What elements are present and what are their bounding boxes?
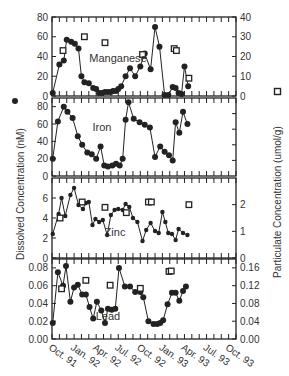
plot-frame bbox=[52, 178, 236, 258]
dissolved-point bbox=[132, 73, 138, 79]
dissolved-point bbox=[118, 83, 124, 89]
dissolved-point bbox=[156, 44, 162, 50]
particulate-point bbox=[107, 282, 113, 288]
dissolved-point bbox=[127, 205, 131, 209]
dissolved-point bbox=[89, 151, 95, 157]
right-tick-label: 0.12 bbox=[240, 280, 260, 291]
dissolved-point bbox=[183, 284, 189, 290]
dissolved-point bbox=[70, 115, 76, 121]
dissolved-point bbox=[61, 57, 67, 63]
right-tick-label: 0.16 bbox=[240, 262, 260, 273]
right-tick-label: 0 bbox=[240, 91, 246, 102]
left-tick-label: 60 bbox=[37, 119, 49, 130]
dissolved-point bbox=[157, 144, 163, 150]
dissolved-point bbox=[137, 63, 143, 69]
particulate-point bbox=[186, 202, 192, 208]
dissolved-point bbox=[173, 290, 179, 296]
dissolved-point bbox=[78, 73, 84, 79]
dissolved-point bbox=[75, 282, 81, 288]
panel-label: Zinc bbox=[105, 226, 126, 238]
right-tick-label: 2 bbox=[240, 199, 246, 210]
dissolved-point bbox=[185, 83, 191, 89]
dissolved-point bbox=[131, 116, 137, 122]
particulate-point bbox=[59, 286, 65, 292]
dissolved-point bbox=[176, 227, 180, 231]
particulate-point bbox=[57, 215, 63, 221]
dissolved-point bbox=[61, 104, 67, 110]
dissolved-point bbox=[173, 238, 177, 242]
dissolved-point bbox=[83, 292, 89, 298]
panels: 020406080010203040Manganese020406080Iron… bbox=[29, 12, 260, 345]
dissolved-point bbox=[63, 263, 69, 269]
dissolved-point bbox=[123, 73, 129, 79]
dissolved-point bbox=[180, 109, 186, 115]
particulate-point bbox=[60, 48, 66, 54]
panel-label: Manganese bbox=[89, 52, 147, 64]
dissolved-point bbox=[147, 124, 153, 130]
dissolved-point bbox=[148, 221, 152, 225]
left-tick-label: 40 bbox=[37, 136, 49, 147]
panel-manganese: 020406080010203040Manganese bbox=[37, 12, 252, 102]
particulate-point bbox=[168, 268, 174, 274]
dissolved-point bbox=[50, 90, 56, 96]
dissolved-point bbox=[184, 121, 190, 127]
left-tick-label: 0 bbox=[42, 171, 48, 182]
dissolved-point bbox=[101, 218, 105, 222]
dissolved-point bbox=[152, 154, 158, 160]
right-tick-label: 0.04 bbox=[240, 316, 260, 327]
dissolved-point bbox=[148, 66, 154, 72]
dissolved-point bbox=[117, 163, 123, 169]
particulate-point bbox=[83, 278, 89, 284]
left-tick-label: 20 bbox=[37, 153, 49, 164]
dissolved-point bbox=[51, 232, 55, 236]
left-tick-label: 0.06 bbox=[29, 280, 49, 291]
dissolved-point bbox=[160, 317, 166, 323]
dissolved-point bbox=[152, 24, 158, 30]
dissolved-point bbox=[145, 318, 151, 324]
particulate-point bbox=[186, 75, 192, 81]
panel-iron: 020406080Iron bbox=[37, 98, 236, 182]
dissolved-point bbox=[122, 284, 128, 290]
dissolved-point bbox=[170, 157, 176, 163]
dissolved-point bbox=[142, 122, 148, 128]
right-tick-label: 1 bbox=[240, 226, 246, 237]
particulate-point bbox=[102, 205, 108, 211]
dissolved-point bbox=[170, 232, 174, 236]
left-tick-label: 2 bbox=[42, 233, 48, 244]
left-tick-label: 4 bbox=[42, 213, 48, 224]
left-tick-label: 0.02 bbox=[29, 316, 49, 327]
dissolved-point bbox=[120, 156, 126, 162]
dissolved-point bbox=[87, 200, 91, 204]
left-tick-label: 40 bbox=[37, 51, 49, 62]
dissolved-point bbox=[166, 231, 170, 235]
dissolved-point bbox=[157, 231, 161, 235]
dissolved-point bbox=[131, 216, 135, 220]
dissolved-point bbox=[68, 193, 72, 197]
dissolved-point bbox=[86, 80, 92, 86]
dissolved-point bbox=[165, 301, 171, 307]
left-axis-title: Dissolved Concentration (nM) bbox=[15, 128, 26, 260]
dissolved-point bbox=[185, 233, 189, 237]
dissolved-point bbox=[116, 207, 120, 211]
particulate-point bbox=[82, 34, 88, 40]
right-tick-label: 0.08 bbox=[240, 298, 260, 309]
right-tick-label: 10 bbox=[240, 71, 252, 82]
dissolved-point bbox=[160, 210, 164, 214]
left-tick-label: 0.04 bbox=[29, 298, 49, 309]
dissolved-point bbox=[55, 118, 61, 124]
dissolved-point bbox=[93, 217, 97, 221]
dissolved-point bbox=[50, 156, 56, 162]
panel-label: Lead bbox=[96, 310, 120, 322]
dissolved-point bbox=[72, 186, 76, 190]
dissolved-point bbox=[176, 298, 182, 304]
particulate-point bbox=[149, 199, 155, 205]
dissolved-point bbox=[181, 231, 185, 235]
particulate-point bbox=[138, 286, 144, 292]
dissolved-point bbox=[67, 299, 73, 305]
dissolved-point bbox=[127, 65, 133, 71]
dissolved-point bbox=[63, 214, 67, 218]
dissolved-point bbox=[123, 117, 129, 123]
dissolved-point bbox=[144, 228, 148, 232]
dissolved-point bbox=[79, 142, 85, 148]
dissolved-point bbox=[173, 119, 179, 125]
